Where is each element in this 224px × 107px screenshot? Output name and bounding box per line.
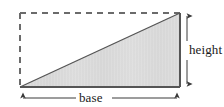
height-label: height (189, 43, 222, 56)
base-label: base (79, 91, 103, 104)
geometry-figure: height base (0, 0, 224, 107)
